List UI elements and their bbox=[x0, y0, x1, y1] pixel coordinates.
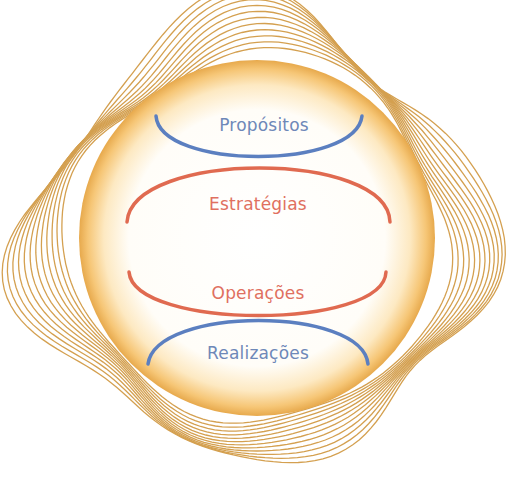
label-propositos: Propósitos bbox=[219, 115, 309, 135]
label-realizacoes: Realizações bbox=[207, 343, 309, 363]
label-estrategias: Estratégias bbox=[209, 194, 307, 214]
label-operacoes: Operações bbox=[212, 283, 305, 303]
diagram-canvas: Propósitos Estratégias Operações Realiza… bbox=[0, 0, 511, 477]
diagram-svg bbox=[0, 0, 511, 477]
